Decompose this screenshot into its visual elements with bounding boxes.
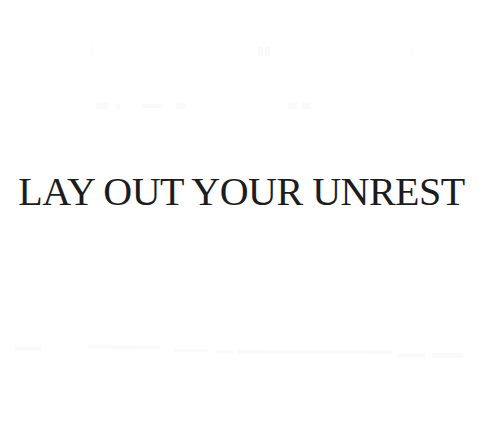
scan-streak <box>215 350 233 353</box>
ghost-smudge <box>265 47 270 56</box>
ghost-smudge <box>258 47 263 56</box>
scan-streak <box>15 347 41 351</box>
scan-streak <box>175 349 208 352</box>
ghost-smudge <box>143 104 163 108</box>
ghost-smudge <box>288 103 297 109</box>
page-title: LAY OUT YOUR UNREST <box>0 172 483 212</box>
ghost-smudge <box>411 48 413 56</box>
ghost-smudge <box>176 103 186 109</box>
scan-streak <box>88 345 160 350</box>
scan-streak <box>398 353 425 357</box>
ghost-smudge <box>96 103 108 109</box>
scan-streak <box>432 353 463 358</box>
ghost-smudge <box>116 104 120 109</box>
ghost-smudge <box>302 103 311 109</box>
scan-streak <box>238 349 392 354</box>
page: LAY OUT YOUR UNREST <box>0 0 483 433</box>
ghost-smudge <box>91 47 93 56</box>
